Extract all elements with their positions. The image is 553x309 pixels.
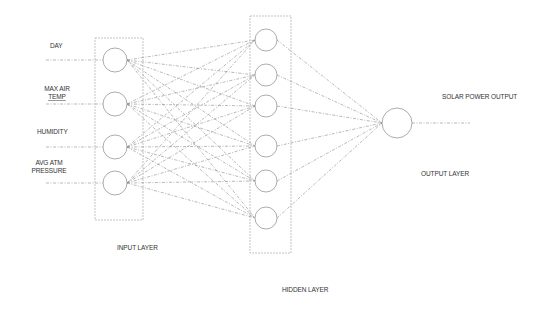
input-label-humidity: HUMIDITY	[37, 128, 68, 136]
hidden-output-edge	[277, 106, 382, 123]
hidden-neuron	[255, 64, 277, 86]
input-label-day: DAY	[50, 42, 63, 50]
input-neuron	[103, 135, 127, 159]
input-hidden-edge	[127, 40, 255, 183]
input-hidden-edge	[127, 106, 255, 147]
hidden-neuron	[255, 29, 277, 51]
input-hidden-edge	[127, 104, 255, 181]
hidden-output-edge	[277, 123, 382, 146]
hidden-output-edge	[277, 123, 382, 218]
input-label-max-air-temp: MAX AIR TEMP	[42, 85, 72, 101]
hidden-layer-label: HIDDEN LAYER	[282, 286, 328, 294]
input-hidden-edge	[127, 104, 255, 218]
input-hidden-edge	[127, 40, 255, 104]
hidden-neuron	[255, 135, 277, 157]
input-hidden-edge	[127, 40, 255, 60]
input-label-avg-atm-line1: AVG ATM	[29, 159, 69, 167]
input-hidden-edge	[127, 75, 255, 147]
output-layer-label: OUTPUT LAYER	[421, 170, 469, 178]
hidden-neuron	[255, 170, 277, 192]
hidden-output-edge	[277, 123, 382, 181]
input-hidden-edge	[127, 75, 255, 183]
input-label-avg-atm-pressure: AVG ATM PRESSURE	[29, 159, 69, 175]
input-label-avg-atm-line2: PRESSURE	[29, 167, 69, 175]
input-hidden-edge	[127, 60, 255, 218]
input-neuron	[103, 48, 127, 72]
input-label-max-air-line2: TEMP	[42, 93, 72, 101]
input-hidden-edge	[127, 147, 255, 181]
input-hidden-edge	[127, 146, 255, 147]
input-label-max-air-line1: MAX AIR	[42, 85, 72, 93]
input-hidden-edge	[127, 60, 255, 181]
hidden-neuron	[255, 95, 277, 117]
input-neuron	[103, 171, 127, 195]
output-neuron	[382, 108, 412, 138]
hidden-output-edge	[277, 40, 382, 123]
input-hidden-edge	[127, 181, 255, 183]
input-hidden-edge	[127, 104, 255, 106]
input-hidden-edge	[127, 60, 255, 106]
input-hidden-edge	[127, 146, 255, 183]
neurons	[103, 29, 412, 229]
input-layer-label: INPUT LAYER	[117, 244, 158, 252]
input-hidden-edge	[127, 104, 255, 146]
input-neuron	[103, 92, 127, 116]
input-hidden-edge	[127, 40, 255, 147]
input-hidden-edge	[127, 75, 255, 104]
input-hidden-edge	[127, 106, 255, 183]
hidden-output-edge	[277, 75, 382, 123]
solar-power-output-label: SOLAR POWER OUTPUT	[442, 93, 517, 101]
hidden-neuron	[255, 207, 277, 229]
neural-network-diagram	[0, 0, 553, 309]
